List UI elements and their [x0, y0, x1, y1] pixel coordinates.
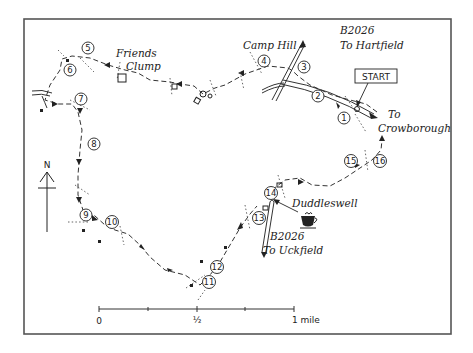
svg-text:7: 7: [78, 94, 83, 104]
waypoint-12: 12: [211, 261, 224, 274]
waypoint-14: 14: [265, 187, 278, 200]
waypoint-9: 9: [80, 209, 92, 221]
scale-bar: 0 ½ 1 mile: [96, 306, 320, 326]
svg-text:8: 8: [91, 139, 96, 149]
scale-label-0: 0: [96, 316, 102, 326]
duddleswell-label: Duddleswell: [291, 197, 358, 209]
waypoint-16: 16: [374, 155, 387, 168]
waypoint-13: 13: [253, 212, 266, 225]
waypoint-15: 15: [345, 155, 358, 168]
start-label: START: [355, 69, 397, 107]
svg-text:16: 16: [375, 156, 386, 166]
waypoint-4: 4: [258, 55, 270, 67]
svg-text:2: 2: [315, 91, 320, 101]
waypoint-7: 7: [75, 93, 87, 105]
b2026-north-destination-label: To Hartfield: [340, 39, 404, 51]
svg-text:6: 6: [67, 65, 72, 75]
svg-text:12: 12: [212, 262, 223, 272]
waypoint-8: 8: [88, 138, 100, 150]
b2026-south-road-label: B2026: [269, 230, 305, 242]
b2026-north-road-label: B2026: [339, 24, 375, 36]
svg-text:4: 4: [261, 56, 266, 66]
friends-clump-label-2: Clump: [126, 60, 161, 72]
walk-route-map: 1 2 3 4 5 6 7 8 9 10 11 12 13 14 15 16 S…: [0, 0, 473, 353]
svg-text:13: 13: [254, 213, 265, 223]
svg-text:3: 3: [301, 62, 306, 72]
minor-road-west: [32, 90, 52, 108]
north-arrow-icon: N: [38, 160, 56, 232]
b2026-south-destination-label: To Uckfield: [263, 244, 324, 256]
svg-text:START: START: [362, 72, 390, 82]
friends-clump-label-1: Friends: [115, 47, 157, 59]
svg-text:10: 10: [107, 217, 118, 227]
svg-text:5: 5: [85, 43, 90, 53]
compass-label: N: [44, 160, 51, 170]
waypoint-3: 3: [298, 61, 310, 73]
camp-hill-label: Camp Hill: [243, 39, 297, 51]
walk-route: [45, 56, 385, 285]
svg-text:11: 11: [204, 277, 215, 287]
waypoint-5: 5: [82, 42, 94, 54]
to-label: To: [388, 108, 401, 120]
waypoint-6: 6: [64, 64, 76, 76]
scale-label-1-mile: 1 mile: [292, 315, 320, 325]
svg-text:9: 9: [83, 210, 88, 220]
svg-text:15: 15: [346, 156, 357, 166]
waypoint-2: 2: [312, 90, 324, 102]
scale-label-half: ½: [193, 315, 202, 325]
waypoint-1: 1: [338, 112, 350, 124]
svg-text:1: 1: [341, 113, 346, 123]
svg-text:14: 14: [266, 188, 277, 198]
waypoint-10: 10: [106, 216, 119, 229]
road-to-crowborough: [281, 80, 378, 119]
waypoint-11: 11: [203, 276, 216, 289]
crowborough-label: Crowborough: [378, 122, 451, 134]
